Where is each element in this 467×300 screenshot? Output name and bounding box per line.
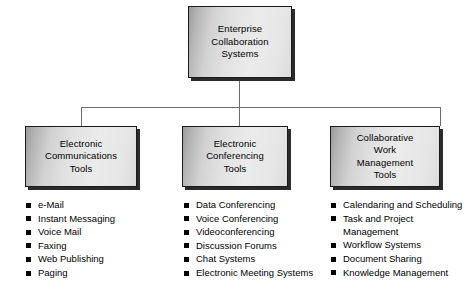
node-electronic-communications-tools: Electronic Communications Tools — [25, 126, 137, 187]
list-item: Knowledge Management — [331, 266, 467, 279]
node-conferencing-label-line3: Tools — [224, 163, 247, 174]
connector-drop-collaborative — [440, 107, 441, 126]
node-conferencing-label: Electronic Conferencing Tools — [202, 138, 268, 176]
list-item: Workflow Systems — [331, 238, 467, 251]
node-communications-label-line1: Electronic — [60, 138, 103, 149]
list-item: Voice Mail — [26, 225, 166, 238]
list-collaborative-work-management-tools: Calendaring and Scheduling Task and Proj… — [331, 198, 467, 279]
node-communications-label-line2: Communications — [45, 150, 117, 161]
connector-drop-communications — [81, 107, 82, 126]
diagram-canvas: Enterprise Collaboration Systems Electro… — [0, 0, 467, 300]
node-collaborative-label-line3: Management — [357, 157, 413, 168]
connector-horizontal-bus — [81, 107, 440, 108]
connector-root-drop — [239, 78, 240, 107]
list-item: Videoconferencing — [184, 225, 324, 238]
list-item: Paging — [26, 266, 166, 279]
list-item: Voice Conferencing — [184, 212, 324, 225]
node-enterprise-collaboration-systems: Enterprise Collaboration Systems — [188, 6, 292, 78]
node-root-label-line2: Collaboration — [211, 36, 268, 47]
node-communications-label-line3: Tools — [70, 163, 93, 174]
list-item: e-Mail — [26, 198, 166, 211]
node-collaborative-label-line4: Tools — [374, 169, 397, 180]
list-item: Faxing — [26, 239, 166, 252]
node-collaborative-work-management-tools: Collaborative Work Management Tools — [330, 126, 440, 187]
node-root-label: Enterprise Collaboration Systems — [207, 23, 272, 61]
list-item: Electronic Meeting Systems — [184, 266, 324, 279]
list-item: Instant Messaging — [26, 212, 166, 225]
list-item: Document Sharing — [331, 252, 467, 265]
node-collaborative-label: Collaborative Work Management Tools — [353, 132, 418, 182]
node-conferencing-label-line2: Conferencing — [206, 150, 264, 161]
list-electronic-conferencing-tools: Data Conferencing Voice Conferencing Vid… — [184, 198, 324, 280]
list-item: Task and Project Management — [331, 212, 467, 238]
node-root-label-line1: Enterprise — [218, 23, 262, 34]
node-collaborative-label-line2: Work — [374, 144, 396, 155]
node-electronic-conferencing-tools: Electronic Conferencing Tools — [182, 126, 288, 187]
node-conferencing-label-line1: Electronic — [214, 138, 257, 149]
node-root-label-line3: Systems — [221, 48, 258, 59]
node-communications-label: Electronic Communications Tools — [41, 138, 121, 176]
list-electronic-communications-tools: e-Mail Instant Messaging Voice Mail Faxi… — [26, 198, 166, 280]
list-item: Web Publishing — [26, 252, 166, 265]
list-item: Discussion Forums — [184, 239, 324, 252]
list-item: Data Conferencing — [184, 198, 324, 211]
node-collaborative-label-line1: Collaborative — [357, 132, 414, 143]
list-item: Calendaring and Scheduling — [331, 198, 467, 211]
connector-drop-conferencing — [239, 107, 240, 126]
list-item: Chat Systems — [184, 252, 324, 265]
